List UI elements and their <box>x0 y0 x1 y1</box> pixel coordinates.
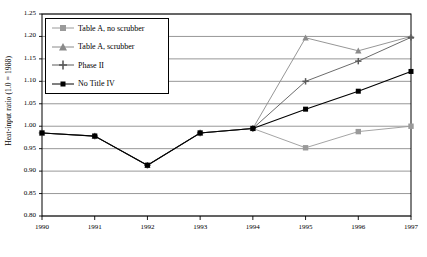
legend-label: Phase II <box>75 61 104 70</box>
data-point <box>408 124 413 129</box>
x-axis-tick-label: 1992 <box>127 223 167 231</box>
data-point <box>198 130 203 135</box>
data-point <box>40 130 45 135</box>
data-point <box>302 34 308 40</box>
data-point <box>356 129 361 134</box>
x-axis-tick-label: 1991 <box>75 223 115 231</box>
y-axis-tick-label: 0.80 <box>8 211 36 219</box>
legend-marker-plus-icon <box>51 59 75 71</box>
legend-label: No Title IV <box>75 79 115 88</box>
y-axis-tick-label: 0.85 <box>8 189 36 197</box>
data-point <box>356 89 361 94</box>
legend-marker-triangle-icon <box>51 41 75 53</box>
legend-label: Table A, scrubber <box>75 42 135 51</box>
legend-item-no-title-iv[interactable]: No Title IV <box>46 75 168 94</box>
y-axis-tick-label: 0.95 <box>8 144 36 152</box>
x-axis-tick-label: 1994 <box>233 223 273 231</box>
legend-label: Table A, no scrubber <box>75 24 145 33</box>
y-axis-tick-label: 1.20 <box>8 31 36 39</box>
data-point <box>409 69 414 74</box>
x-axis-tick-label: 1997 <box>391 223 427 231</box>
chart-legend: Table A, no scrubber Table A, scrubber P… <box>45 18 169 94</box>
legend-item-table-a-no-scrubber[interactable]: Table A, no scrubber <box>46 19 168 38</box>
chart-container: Heat-input ratio (1.0 = 1988) Table A, n… <box>0 0 427 257</box>
data-point <box>303 107 308 112</box>
data-point <box>250 126 255 131</box>
x-axis-tick-label: 1995 <box>286 223 326 231</box>
legend-marker-square-icon <box>51 22 75 34</box>
y-axis-tick-label: 1.00 <box>8 121 36 129</box>
data-point <box>303 145 308 150</box>
x-axis-tick-label: 1990 <box>22 223 62 231</box>
data-point <box>408 34 414 40</box>
data-point <box>92 134 97 139</box>
y-axis-tick-label: 1.10 <box>8 76 36 84</box>
x-axis-tick-label: 1993 <box>180 223 220 231</box>
data-point <box>145 163 150 168</box>
y-axis-tick-label: 1.05 <box>8 99 36 107</box>
legend-item-table-a-scrubber[interactable]: Table A, scrubber <box>46 38 168 57</box>
x-axis-tick-label: 1996 <box>338 223 378 231</box>
y-axis-tick-label: 1.25 <box>8 9 36 17</box>
legend-item-phase-ii[interactable]: Phase II <box>46 56 168 75</box>
y-axis-tick-label: 1.15 <box>8 54 36 62</box>
legend-marker-square-filled-icon <box>51 78 75 90</box>
y-axis-tick-label: 0.90 <box>8 166 36 174</box>
